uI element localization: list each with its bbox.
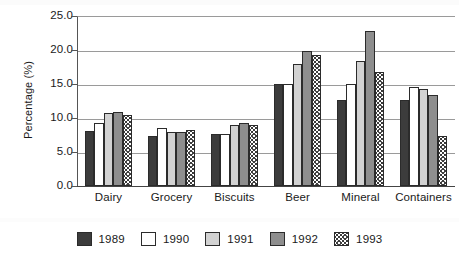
bar-mineral-1992	[365, 31, 375, 186]
bar-group	[337, 16, 385, 186]
bar-beer-1989	[274, 84, 284, 186]
legend-item-1989: 1989	[77, 232, 125, 246]
bars-layer	[77, 16, 455, 186]
legend-label-1991: 1991	[227, 233, 253, 245]
bar-group	[85, 16, 133, 186]
bar-mineral-1991	[356, 61, 366, 186]
legend-swatch-1989	[77, 232, 92, 246]
y-tick-label: 5.0	[33, 146, 73, 158]
legend-swatch-1993	[334, 232, 349, 246]
bar-dairy-1991	[104, 113, 114, 186]
bar-beer-1992	[302, 51, 312, 186]
bar-dairy-1993	[123, 115, 133, 186]
y-tick-label: 0.0	[33, 180, 73, 192]
bar-grocery-1989	[148, 136, 158, 186]
bar-containers-1991	[419, 89, 429, 186]
legend-label-1993: 1993	[356, 233, 382, 245]
legend-item-1990: 1990	[141, 232, 189, 246]
y-tick-mark	[71, 186, 77, 187]
bar-biscuits-1992	[239, 123, 249, 186]
bar-group	[274, 16, 322, 186]
bar-dairy-1989	[85, 131, 95, 186]
bar-dairy-1992	[113, 112, 123, 186]
y-tick-label: 10.0	[33, 112, 73, 124]
legend-label-1992: 1992	[292, 233, 318, 245]
x-axis-line	[77, 186, 455, 187]
legend-swatch-1991	[205, 232, 220, 246]
bar-containers-1989	[400, 100, 410, 186]
grouped-bar-chart: Percentage (%) 25.020.015.010.05.00.0 Da…	[0, 0, 459, 257]
bar-biscuits-1989	[211, 134, 221, 186]
y-tick-mark	[71, 50, 77, 51]
y-tick-mark	[71, 118, 77, 119]
y-tick-label: 20.0	[33, 44, 73, 56]
y-tick-label: 15.0	[33, 78, 73, 90]
bar-beer-1991	[293, 64, 303, 186]
legend-label-1990: 1990	[163, 233, 189, 245]
chart-legend: 19891990199119921993	[0, 228, 459, 250]
bar-biscuits-1993	[249, 125, 259, 186]
bar-biscuits-1990	[220, 134, 230, 186]
bar-containers-1992	[428, 95, 438, 186]
bar-mineral-1989	[337, 100, 347, 186]
x-label-containers: Containers	[384, 190, 459, 204]
y-tick-mark	[71, 16, 77, 17]
y-tick-mark	[71, 152, 77, 153]
bar-grocery-1993	[186, 130, 196, 186]
legend-swatch-1990	[141, 232, 156, 246]
bar-beer-1993	[312, 55, 322, 186]
legend-item-1992: 1992	[270, 232, 318, 246]
bar-beer-1990	[283, 84, 293, 186]
bar-dairy-1990	[94, 123, 104, 186]
y-tick-mark	[71, 84, 77, 85]
bar-biscuits-1991	[230, 125, 240, 186]
bar-containers-1990	[409, 87, 419, 186]
bar-mineral-1993	[375, 72, 385, 186]
bar-containers-1993	[438, 136, 448, 186]
legend-item-1993: 1993	[334, 232, 382, 246]
y-tick-label: 25.0	[33, 10, 73, 22]
legend-swatch-1992	[270, 232, 285, 246]
bar-group	[148, 16, 196, 186]
bar-grocery-1992	[176, 132, 186, 186]
x-axis-category-labels: DairyGroceryBiscuitsBeerMineralContainer…	[77, 190, 455, 208]
bar-group	[400, 16, 448, 186]
bar-group	[211, 16, 259, 186]
bar-grocery-1990	[157, 128, 167, 186]
bar-mineral-1990	[346, 84, 356, 186]
bar-grocery-1991	[167, 132, 177, 186]
legend-label-1989: 1989	[99, 233, 125, 245]
legend-item-1991: 1991	[205, 232, 253, 246]
y-axis-tick-labels: 25.020.015.010.05.00.0	[0, 0, 73, 257]
